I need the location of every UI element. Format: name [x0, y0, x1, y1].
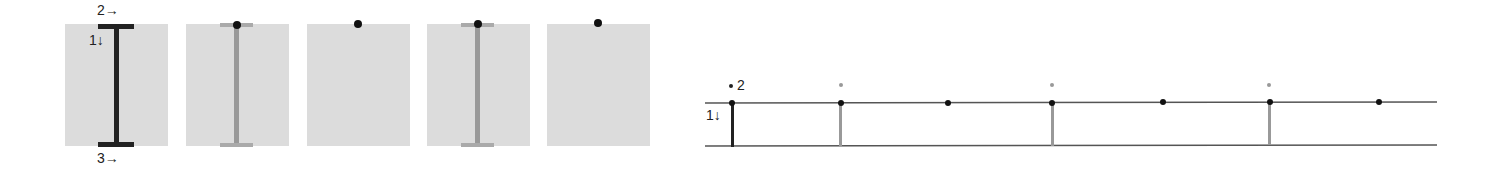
label-2: 2→	[97, 2, 119, 18]
label-1: 1↓	[89, 32, 104, 48]
i-beam-faded	[461, 23, 494, 147]
label-3: 3→	[97, 150, 119, 166]
dot-marker	[594, 19, 602, 27]
label-2-right: 2	[737, 77, 745, 93]
dot-marker	[354, 20, 362, 28]
diagram-canvas	[0, 0, 1493, 172]
label-1-right: 1↓	[706, 107, 721, 123]
dot-marker	[233, 21, 241, 29]
dot-marker	[474, 20, 482, 28]
i-beam-faded	[220, 23, 253, 147]
right-diagram	[705, 83, 1437, 147]
